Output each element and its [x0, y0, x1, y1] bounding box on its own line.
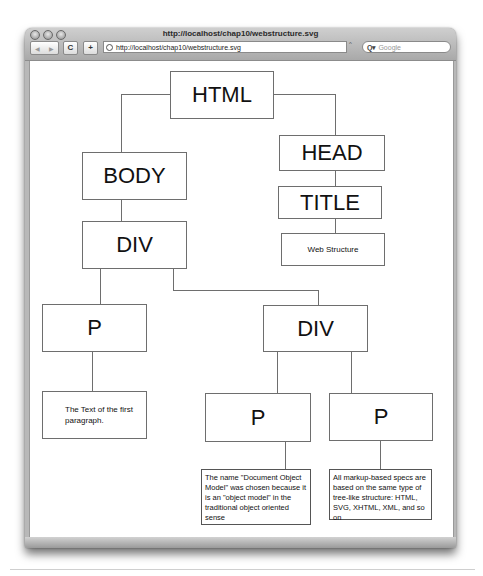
- search-icon: Q▾: [367, 44, 376, 51]
- connector-head-title: [335, 170, 336, 186]
- connector-div-div: [173, 290, 318, 291]
- node-p-3-text: All markup-based specs are based on the …: [329, 469, 432, 520]
- connector-div-p2: [277, 351, 278, 393]
- globe-icon: [106, 44, 113, 51]
- reload-button[interactable]: C: [63, 41, 78, 55]
- node-div: DIV: [82, 221, 187, 269]
- node-title-text: Web Structure: [281, 233, 385, 266]
- node-p-2-text: The name "Document Object Model" was cho…: [201, 469, 311, 525]
- node-div-2: DIV: [263, 305, 368, 352]
- node-label: TITLE: [300, 190, 360, 216]
- node-label: BODY: [103, 163, 165, 189]
- connector-div-div: [173, 268, 174, 290]
- add-bookmark-button[interactable]: +: [83, 41, 98, 55]
- back-forward-buttons[interactable]: ◀ ▶: [30, 41, 59, 55]
- connector-html-head: [335, 94, 336, 135]
- node-label: P: [374, 404, 389, 430]
- window-bottom-bar: [25, 537, 456, 548]
- snapback-icon[interactable]: ^: [349, 41, 352, 47]
- node-label: The Text of the first paragraph.: [65, 404, 135, 426]
- search-field[interactable]: Q▾ Google: [362, 41, 451, 53]
- node-p-3: P: [329, 393, 433, 441]
- address-bar[interactable]: http://localhost/chap10/webstructure.svg: [103, 41, 347, 53]
- title-bar: http://localhost/chap10/webstructure.svg…: [25, 28, 456, 61]
- node-head: HEAD: [279, 135, 385, 171]
- reload-icon: C: [68, 43, 74, 52]
- connector-p2-text: [285, 441, 286, 469]
- node-html: HTML: [170, 71, 274, 119]
- connector-div-p3: [351, 351, 352, 393]
- node-label: DIV: [297, 316, 334, 342]
- connector-p3-text: [380, 440, 381, 469]
- forward-icon[interactable]: ▶: [49, 45, 54, 52]
- connector-html-body: [121, 94, 122, 152]
- connector-title-text: [335, 218, 336, 233]
- connector-div-div: [318, 290, 319, 305]
- back-icon[interactable]: ◀: [35, 45, 40, 52]
- browser-window: http://localhost/chap10/webstructure.svg…: [25, 28, 456, 548]
- plus-icon: +: [88, 43, 93, 52]
- node-title: TITLE: [278, 186, 382, 219]
- node-label: P: [87, 315, 102, 341]
- connector-div-p: [100, 268, 101, 304]
- svg-content-area: HTML HEAD TITLE Web Structure BODY DIV P…: [29, 61, 454, 537]
- connector-body-div: [121, 199, 122, 221]
- node-label: The name "Document Object Model" was cho…: [205, 473, 306, 522]
- node-body: BODY: [82, 152, 187, 200]
- url-text: http://localhost/chap10/webstructure.svg: [116, 44, 241, 51]
- node-p-2: P: [205, 393, 311, 442]
- node-p: P: [42, 304, 147, 352]
- node-label: HEAD: [301, 140, 362, 166]
- connector-html-head: [273, 94, 335, 95]
- node-label: DIV: [116, 232, 153, 258]
- node-p-text: The Text of the first paragraph.: [42, 391, 147, 439]
- connector-p-text: [92, 351, 93, 391]
- divider: [10, 569, 475, 570]
- window-title: http://localhost/chap10/webstructure.svg: [25, 29, 456, 38]
- search-placeholder: Google: [378, 44, 401, 51]
- node-label: All markup-based specs are based on the …: [333, 473, 426, 522]
- connector-html-body: [121, 94, 171, 95]
- node-label: HTML: [192, 82, 252, 108]
- node-label: P: [251, 405, 266, 431]
- node-label: Web Structure: [308, 245, 359, 254]
